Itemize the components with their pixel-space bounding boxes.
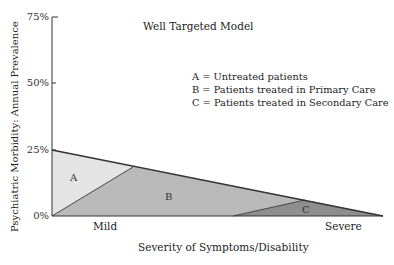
region-b-label: B [165, 191, 172, 202]
x-axis-label: Severity of Symptoms/Disability [138, 241, 309, 253]
chart-title: Well Targeted Model [143, 20, 253, 32]
region-a-label: A [70, 172, 77, 183]
x-category-severe: Severe [325, 220, 362, 232]
legend: A = Untreated patients B = Patients trea… [192, 70, 389, 109]
y-tick-label-0: 0% [15, 210, 49, 221]
legend-item-a: A = Untreated patients [192, 70, 389, 83]
y-axis-label: Psychiatric Morbidity: Annual Prevalence [9, 27, 20, 232]
legend-item-c: C = Patients treated in Secondary Care [192, 96, 389, 109]
legend-item-b: B = Patients treated in Primary Care [192, 83, 389, 96]
y-tick-label-75: 75% [15, 11, 49, 22]
y-tick-label-50: 50% [15, 77, 49, 88]
region-c-label: C [302, 204, 310, 215]
x-category-mild: Mild [93, 220, 117, 232]
y-tick-label-25: 25% [15, 144, 49, 155]
